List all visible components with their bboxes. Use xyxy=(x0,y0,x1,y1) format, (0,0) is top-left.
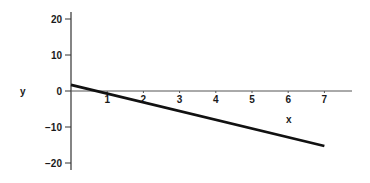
y-tick-label: 10 xyxy=(51,50,63,61)
x-tick-label: 3 xyxy=(177,94,183,105)
y-ticks: 20100−10−20 xyxy=(45,14,71,169)
y-axis-label: y xyxy=(20,86,26,97)
x-ticks: 1234567 xyxy=(104,91,327,105)
y-tick-label: 20 xyxy=(51,14,63,25)
y-tick-label: 0 xyxy=(56,86,62,97)
x-tick-label: 7 xyxy=(322,94,328,105)
x-axis-label: x xyxy=(286,114,292,125)
x-tick-label: 1 xyxy=(104,94,110,105)
x-tick-label: 6 xyxy=(285,94,291,105)
y-tick-label: −20 xyxy=(45,158,62,169)
x-tick-label: 5 xyxy=(249,94,255,105)
y-tick-label: −10 xyxy=(45,122,62,133)
x-tick-label: 4 xyxy=(213,94,219,105)
line-chart: 20100−10−20 1234567 y x xyxy=(0,0,370,183)
